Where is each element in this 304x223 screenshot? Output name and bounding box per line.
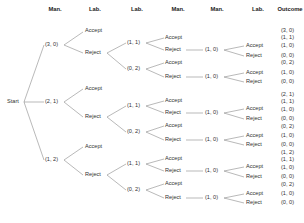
outcome: (1, 0): [281, 70, 294, 76]
header-man-1: Man.: [48, 7, 61, 13]
lo-final-offer: (1, 0): [205, 195, 218, 201]
outcome: (0, 0): [281, 116, 294, 122]
lo-final-offer: (1, 0): [205, 74, 218, 80]
lo-final-reject: Reject: [246, 142, 262, 148]
header-man-3: Man.: [210, 7, 223, 13]
outcome: (0, 2): [281, 182, 294, 188]
lo-accept: Accept: [165, 60, 182, 66]
hi-final-reject: Reject: [246, 116, 262, 122]
counter-offer-lo: (0, 2): [127, 187, 140, 193]
outcome: (1, 2): [281, 150, 294, 156]
outcome: (3, 0): [281, 28, 294, 34]
outcome: (2, 1): [281, 92, 294, 98]
outcome: (1, 1): [281, 35, 294, 41]
outcome: (1, 0): [281, 107, 294, 113]
hi-accept: Accept: [165, 35, 182, 41]
outcome: (1, 0): [281, 43, 294, 49]
lo-reject: Reject: [165, 195, 181, 201]
reject-node: Reject: [85, 50, 101, 56]
header-lab-1: Lab.: [89, 7, 101, 13]
hi-final-offer: (1, 0): [205, 168, 218, 174]
outcome: (1, 0): [281, 133, 294, 139]
hi-final-accept: Accept: [246, 106, 263, 112]
lo-reject: Reject: [165, 137, 181, 143]
header-lab-2: Lab.: [131, 7, 143, 13]
accept-node: Accept: [85, 144, 102, 150]
lo-final-accept: Accept: [246, 70, 263, 76]
outcome: (1, 0): [281, 191, 294, 197]
reject-node: Reject: [85, 172, 101, 178]
counter-offer-hi: (1, 1): [127, 161, 140, 167]
counter-offer-lo: (0, 2): [127, 66, 140, 72]
outcome: (0, 0): [281, 142, 294, 148]
lo-final-reject: Reject: [246, 200, 262, 206]
header-lab-3: Lab.: [252, 7, 264, 13]
hi-accept: Accept: [165, 98, 182, 104]
outcome: (1, 1): [281, 99, 294, 105]
accept-node: Accept: [85, 28, 102, 34]
hi-reject: Reject: [165, 110, 181, 116]
outcome: (1, 1): [281, 157, 294, 163]
lo-final-accept: Accept: [246, 191, 263, 197]
reject-node: Reject: [85, 114, 101, 120]
lo-accept: Accept: [165, 123, 182, 129]
hi-final-accept: Accept: [246, 43, 263, 49]
lo-final-reject: Reject: [246, 79, 262, 85]
hi-final-offer: (1, 0): [205, 110, 218, 116]
counter-offer-hi: (1, 1): [127, 103, 140, 109]
outcome: (0, 0): [281, 174, 294, 180]
outcome: (0, 0): [281, 53, 294, 59]
lo-reject: Reject: [165, 74, 181, 80]
outcome: (1, 0): [281, 165, 294, 171]
counter-offer-lo: (0, 2): [127, 129, 140, 135]
outcome: (0, 2): [281, 124, 294, 130]
counter-offer-hi: (1, 1): [127, 40, 140, 46]
start-node: Start: [7, 99, 19, 105]
hi-reject: Reject: [165, 168, 181, 174]
offer-node: (3, 0): [45, 42, 58, 48]
header-outcome: Outcome: [277, 7, 302, 13]
hi-reject: Reject: [165, 47, 181, 53]
hi-accept: Accept: [165, 156, 182, 162]
hi-final-reject: Reject: [246, 174, 262, 180]
lo-accept: Accept: [165, 181, 182, 187]
offer-node: (1, 2): [45, 157, 58, 163]
hi-final-accept: Accept: [246, 164, 263, 170]
outcome: (0, 0): [281, 200, 294, 206]
lo-final-accept: Accept: [246, 133, 263, 139]
header-man-2: Man.: [171, 7, 184, 13]
offer-node: (2, 1): [45, 99, 58, 105]
outcome: (0, 2): [281, 60, 294, 66]
hi-final-reject: Reject: [246, 53, 262, 59]
lo-final-offer: (1, 0): [205, 137, 218, 143]
hi-final-offer: (1, 0): [205, 47, 218, 53]
accept-node: Accept: [85, 86, 102, 92]
outcome: (0, 0): [281, 79, 294, 85]
